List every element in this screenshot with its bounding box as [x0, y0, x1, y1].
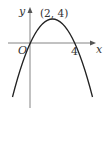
vertex-label: (2, 4) [40, 8, 68, 19]
x-axis-label: x [96, 44, 102, 55]
y-axis-arrow-icon [28, 7, 33, 13]
root-label: 4 [71, 46, 78, 57]
parabola-curve [13, 19, 93, 97]
parabola-diagram [0, 0, 109, 141]
y-axis-label: y [19, 6, 25, 17]
origin-label: O [18, 45, 27, 56]
